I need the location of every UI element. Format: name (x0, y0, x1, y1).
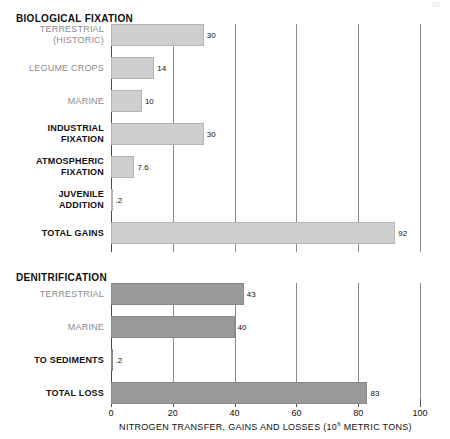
section-header-biological-fixation: BIOLOGICAL FIXATION (16, 13, 133, 24)
bar-value-label: 92 (395, 229, 407, 238)
bar-label-line: JUVENILE (58, 189, 104, 200)
bar-label-line: TERRESTRIAL (40, 289, 104, 300)
bar-label-line: TO SEDIMENTS (34, 355, 104, 366)
nitrogen-budget-bar-chart: 65 BIOLOGICAL FIXATION DENITRIFICATION 0… (0, 0, 450, 439)
bar-value-label: 30 (204, 130, 216, 139)
bar-label-line: TERRESTRIAL (40, 24, 104, 35)
x-axis: 020406080100 (111, 407, 420, 408)
bar-row: 30 (111, 123, 420, 145)
bar-value-label: 14 (154, 64, 166, 73)
bar-label-biological-fixation-0: TERRESTRIAL(HISTORIC) (0, 24, 104, 46)
x-tick-label-100: 100 (412, 408, 427, 418)
bar-biological-fixation-1 (111, 57, 154, 79)
bar-row: .2 (111, 349, 420, 371)
page-number: 65 (432, 1, 440, 8)
x-axis-title-prefix: NITROGEN TRANSFER, GAINS AND LOSSES (10 (119, 422, 337, 432)
bar-denitrification-1 (111, 316, 235, 338)
bar-label-line: ADDITION (59, 200, 104, 211)
bar-row: .2 (111, 189, 420, 211)
bar-value-label: 43 (244, 290, 256, 299)
bar-label-line: INDUSTRIAL (48, 123, 105, 134)
bar-row: 83 (111, 382, 420, 404)
bar-label-biological-fixation-2: MARINE (0, 90, 104, 112)
bar-biological-fixation-6 (111, 222, 395, 244)
bar-label-denitrification-1: MARINE (0, 316, 104, 338)
bar-biological-fixation-2 (111, 90, 142, 112)
bar-label-line: MARINE (68, 96, 104, 107)
bar-label-denitrification-3: TOTAL LOSS (0, 382, 104, 404)
bar-row: 92 (111, 222, 420, 244)
bar-label-biological-fixation-4: ATMOSPHERICFIXATION (0, 156, 104, 178)
bar-label-line: TOTAL GAINS (42, 228, 104, 239)
bar-row: 40 (111, 316, 420, 338)
bar-label-denitrification-2: TO SEDIMENTS (0, 349, 104, 371)
bar-value-label: 83 (367, 389, 379, 398)
bar-label-line: MARINE (68, 322, 104, 333)
bar-biological-fixation-3 (111, 123, 204, 145)
bar-row: 30 (111, 24, 420, 46)
bar-denitrification-3 (111, 382, 367, 404)
x-tick-label-0: 0 (108, 408, 113, 418)
bar-row: 7.6 (111, 156, 420, 178)
bar-label-biological-fixation-3: INDUSTRIALFIXATION (0, 123, 104, 145)
x-tick-label-80: 80 (353, 408, 363, 418)
bar-row: 43 (111, 283, 420, 305)
bar-label-biological-fixation-5: JUVENILEADDITION (0, 189, 104, 211)
bar-label-line: ATMOSPHERIC (36, 156, 104, 167)
bar-value-label: .2 (113, 356, 123, 365)
bar-biological-fixation-4 (111, 156, 134, 178)
bar-label-line: FIXATION (61, 134, 104, 145)
bar-row: 14 (111, 57, 420, 79)
bar-label-biological-fixation-6: TOTAL GAINS (0, 222, 104, 244)
bar-label-denitrification-0: TERRESTRIAL (0, 283, 104, 305)
bar-value-label: 10 (142, 97, 154, 106)
x-tick-label-60: 60 (291, 408, 301, 418)
bar-denitrification-0 (111, 283, 244, 305)
x-tick-100 (420, 399, 421, 407)
bar-value-label: 30 (204, 31, 216, 40)
x-axis-title-suffix: METRIC TONS) (341, 422, 412, 432)
bar-label-biological-fixation-1: LEGUME CROPS (0, 57, 104, 79)
section-header-denitrification: DENITRIFICATION (16, 272, 107, 283)
bar-label-line: FIXATION (61, 167, 104, 178)
gridline-100 (420, 24, 421, 252)
bar-value-label: 7.6 (134, 163, 148, 172)
x-tick-label-20: 20 (168, 408, 178, 418)
bar-row: 10 (111, 90, 420, 112)
bar-label-line: (HISTORIC) (53, 35, 104, 46)
bar-label-line: LEGUME CROPS (29, 63, 104, 74)
gridline-100 (420, 283, 421, 407)
bar-value-label: .2 (113, 196, 123, 205)
x-tick-label-40: 40 (230, 408, 240, 418)
bar-biological-fixation-0 (111, 24, 204, 46)
bar-value-label: 40 (235, 323, 247, 332)
bar-label-line: TOTAL LOSS (46, 388, 104, 399)
x-axis-title: NITROGEN TRANSFER, GAINS AND LOSSES (106… (111, 421, 420, 432)
